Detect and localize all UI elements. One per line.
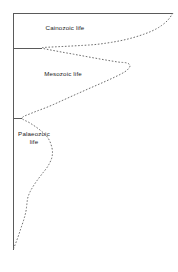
spindle-diagram-figure: Cainozoic life Mesozoic life Palaeozoic … — [0, 0, 178, 272]
era-label-palaeozoic: Palaeozoic life — [13, 130, 55, 145]
era-label-cainozoic: Cainozoic life — [39, 24, 91, 32]
era-label-mesozoic: Mesozoic life — [38, 70, 88, 78]
